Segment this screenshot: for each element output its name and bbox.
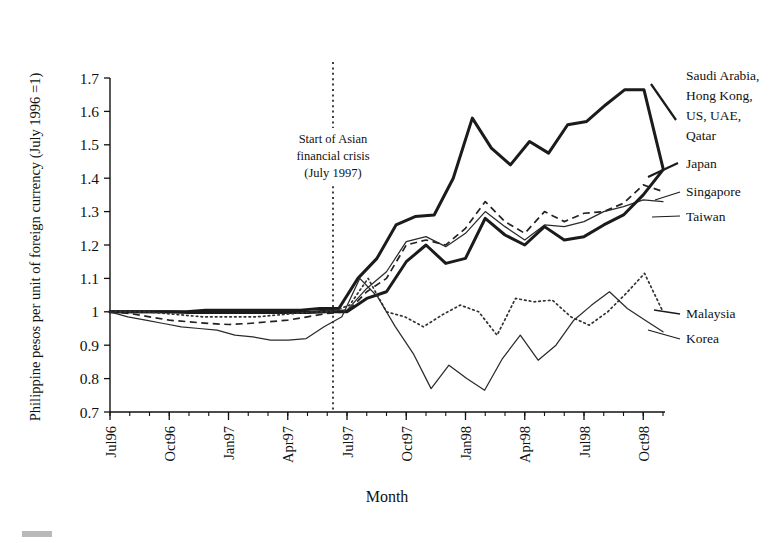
crisis-annotation-line: (July 1997) xyxy=(304,166,361,180)
crisis-annotation: Start of Asianfinancial crisis(July 1997… xyxy=(295,128,373,184)
y-tick-label: 0.9 xyxy=(80,337,100,354)
y-tick-label: 1.1 xyxy=(80,270,99,287)
y-tick-label: 1.5 xyxy=(80,136,100,153)
series-line xyxy=(110,273,663,335)
chart-canvas: Philippine pesos per unit of foreign cur… xyxy=(0,0,776,543)
legend-japan: Japan xyxy=(686,156,717,171)
x-tick-label: Jan98 xyxy=(458,426,474,460)
x-tick-label: Jul98 xyxy=(577,426,593,457)
x-tick-label: Oct96 xyxy=(162,426,178,461)
x-axis-label: Month xyxy=(366,488,409,505)
y-tick-label: 0.7 xyxy=(80,404,100,421)
series-line xyxy=(110,200,663,312)
legend-leader xyxy=(655,192,680,200)
x-tick-label: Jan97 xyxy=(221,426,237,460)
legend-saudi-group: Qatar xyxy=(686,128,716,143)
x-tick-label: Jul97 xyxy=(340,426,356,457)
y-axis-ticks: 0.70.80.911.11.21.31.41.51.61.7 xyxy=(80,70,110,421)
legend-saudi-group: US, UAE, xyxy=(686,108,741,123)
legend-leader xyxy=(648,330,680,339)
scan-artifact xyxy=(22,531,52,537)
legend-labels: Saudi Arabia,Hong Kong,US, UAE,QatarJapa… xyxy=(686,68,760,346)
y-tick-label: 1.3 xyxy=(80,203,100,220)
y-tick-label: 1.7 xyxy=(80,70,100,87)
chart-figure: Philippine pesos per unit of foreign cur… xyxy=(0,0,776,543)
legend-malaysia: Malaysia xyxy=(686,306,736,321)
x-tick-label: Apr98 xyxy=(517,426,533,463)
legend-taiwan: Taiwan xyxy=(686,209,726,224)
y-tick-label: 1.2 xyxy=(80,237,99,254)
legend-leader xyxy=(652,216,680,217)
x-tick-label: Oct98 xyxy=(636,426,652,461)
legend-leader xyxy=(651,84,676,120)
y-tick-label: 1 xyxy=(91,303,99,320)
y-axis-label: Philippine pesos per unit of foreign cur… xyxy=(27,73,44,422)
y-tick-label: 1.6 xyxy=(80,103,100,120)
crisis-annotation-line: Start of Asian xyxy=(299,132,368,146)
legend-singapore: Singapore xyxy=(686,184,741,199)
y-tick-label: 1.4 xyxy=(80,170,100,187)
legend-saudi-group: Hong Kong, xyxy=(686,88,753,103)
x-tick-label: Oct97 xyxy=(399,426,415,461)
series-line xyxy=(110,185,663,325)
x-tick-label: Jul96 xyxy=(103,426,119,457)
x-tick-label: Apr97 xyxy=(280,426,296,463)
legend-saudi-group: Saudi Arabia, xyxy=(686,68,760,83)
x-axis-major-ticks: Jul96Oct96Jan97Apr97Jul97Oct97Jan98Apr98… xyxy=(103,412,652,463)
series-layer xyxy=(110,90,663,391)
legend-korea: Korea xyxy=(686,331,719,346)
series-line xyxy=(110,278,663,390)
y-tick-label: 0.8 xyxy=(80,370,100,387)
crisis-annotation-line: financial crisis xyxy=(296,149,369,163)
legend-leader xyxy=(654,310,680,314)
